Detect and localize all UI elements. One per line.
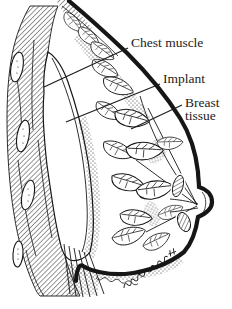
anatomy-illustration: Chest muscle Implant Breast tissue [0,0,232,309]
rib [12,241,24,268]
breast-tissue-label-line2: tissue [185,108,216,123]
leaf-lobule [111,225,145,247]
implant-label: Implant [163,71,205,86]
breast-implant-diagram: Chest muscle Implant Breast tissue [0,0,232,309]
leaf-lobule [142,232,171,251]
chest-muscle-label: Chest muscle [131,35,203,50]
